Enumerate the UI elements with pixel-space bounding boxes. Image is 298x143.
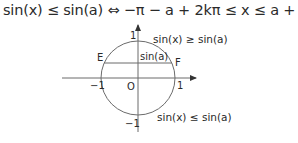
- region-lower-label: sin(x) ≤ sin(a): [157, 111, 232, 123]
- x-left-label: −1: [90, 80, 105, 91]
- chord-label: sin(a): [140, 51, 168, 62]
- unit-circle-diagram: 1 −1 −1 1 O E F sin(a) sin(x) ≥ sin(a) s…: [0, 0, 298, 143]
- x-right-label: 1: [177, 80, 183, 91]
- y-top-label: 1: [130, 30, 136, 41]
- origin-label: O: [127, 81, 135, 92]
- region-upper-label: sin(x) ≥ sin(a): [153, 33, 228, 45]
- point-f-label: F: [175, 57, 181, 68]
- point-e-label: E: [97, 52, 103, 63]
- y-bottom-label: −1: [125, 118, 140, 129]
